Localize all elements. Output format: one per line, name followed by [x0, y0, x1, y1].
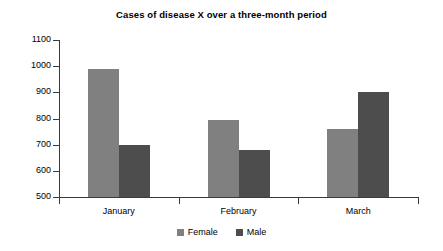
legend-label: Female: [188, 228, 218, 237]
x-tick-mark: [59, 198, 60, 204]
y-tick-label-wrap: 700: [0, 140, 51, 149]
plot-area: [59, 40, 418, 197]
y-axis-tick-label: 1100: [3, 35, 51, 44]
legend-label: Male: [247, 228, 267, 237]
x-axis-line: [59, 197, 419, 198]
y-tick-label-wrap: 900: [0, 87, 51, 96]
bar-january-male: [119, 145, 150, 197]
y-axis-tick-label: 600: [3, 166, 51, 175]
y-axis-tick-label: 700: [3, 140, 51, 149]
y-tick-label-wrap: 500: [0, 192, 51, 201]
legend-item-female[interactable]: Female: [177, 228, 218, 237]
bar-march-female: [327, 129, 358, 197]
y-tick-label-wrap: 600: [0, 166, 51, 175]
bar-march-male: [358, 92, 389, 197]
chart-legend: FemaleMale: [0, 228, 443, 237]
x-tick-mark: [179, 198, 180, 204]
y-tick-label-wrap: 1100: [0, 35, 51, 44]
bar-chart: Cases of disease X over a three-month pe…: [0, 0, 443, 251]
y-axis-tick-label: 800: [3, 114, 51, 123]
x-axis-category-label: January: [59, 206, 179, 217]
x-axis-category-label: February: [179, 206, 299, 217]
x-axis-category-label: March: [298, 206, 418, 217]
bar-february-female: [208, 120, 239, 197]
y-tick-label-wrap: 800: [0, 114, 51, 123]
y-tick-label-wrap: 1000: [0, 61, 51, 70]
y-axis-tick-label: 900: [3, 87, 51, 96]
legend-swatch-icon: [236, 229, 243, 236]
y-axis-tick-label: 500: [3, 192, 51, 201]
legend-swatch-icon: [177, 229, 184, 236]
bar-january-female: [88, 69, 119, 197]
y-axis-tick-label: 1000: [3, 61, 51, 70]
x-tick-mark: [298, 198, 299, 204]
legend-item-male[interactable]: Male: [236, 228, 267, 237]
chart-title: Cases of disease X over a three-month pe…: [0, 9, 443, 20]
x-tick-mark: [418, 198, 419, 204]
bar-february-male: [239, 150, 270, 197]
